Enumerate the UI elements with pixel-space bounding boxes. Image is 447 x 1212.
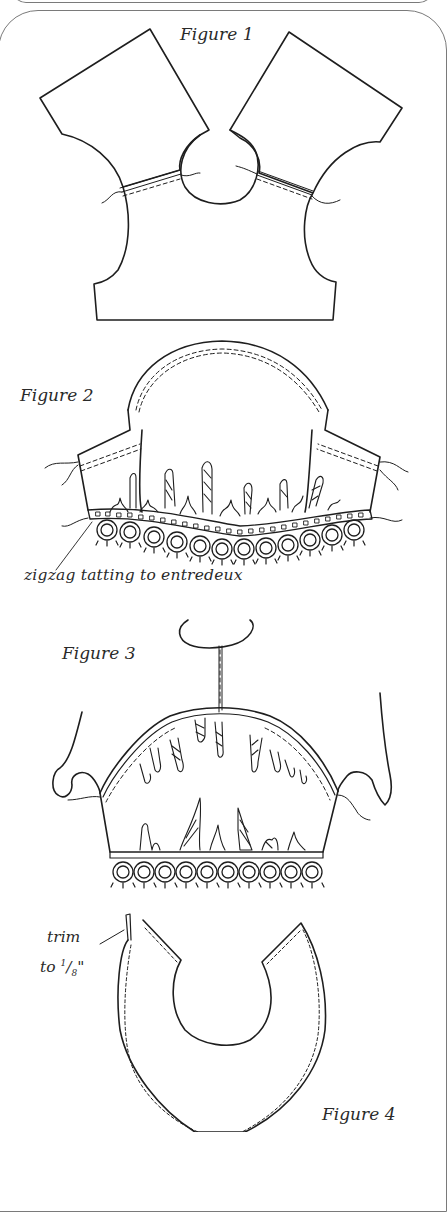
inch-mark: ": [77, 958, 84, 976]
tatting-callout: zigzag tatting to entredeux: [24, 566, 243, 584]
figure-2-caption: Figure 2: [20, 385, 93, 405]
figure-1-caption: Figure 1: [180, 24, 253, 44]
figure-1-drawing: [40, 29, 402, 320]
trim-callout-line1: trim: [47, 928, 80, 946]
trim-callout-line2: to 1/8": [40, 958, 84, 978]
figure-2-drawing: [45, 341, 408, 570]
figure-4-caption: Figure 4: [322, 1104, 395, 1124]
figure-4-drawing: [100, 914, 326, 1132]
trim-prefix: to: [40, 958, 61, 976]
figure-3-caption: Figure 3: [62, 643, 135, 663]
